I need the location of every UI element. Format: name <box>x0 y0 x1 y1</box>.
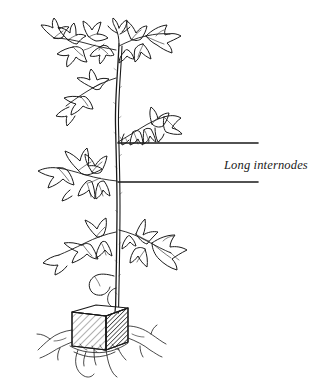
leaf-lower-left <box>43 218 116 275</box>
leaf-internode-right <box>118 107 182 145</box>
leaf-upper-right <box>119 21 181 63</box>
leaf-middle-left <box>38 148 117 201</box>
main-stem <box>114 44 123 313</box>
top-leaf-cluster <box>41 18 181 126</box>
leaf-upper-left-lower <box>56 69 116 126</box>
rockwool-cube <box>72 305 128 350</box>
lower-leaf-whorl <box>43 218 187 275</box>
long-internodes-label: Long internodes <box>224 158 308 173</box>
botanical-figure: Long internodes <box>0 0 332 386</box>
lower-side-shoot <box>89 274 116 306</box>
plant-illustration <box>0 0 332 386</box>
leaf-lower-right <box>119 219 187 270</box>
ink-layer <box>37 18 258 377</box>
leaf-upper-left <box>41 18 116 67</box>
